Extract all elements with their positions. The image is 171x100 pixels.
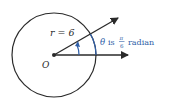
radius-label: r = 6 bbox=[50, 27, 75, 38]
origin-label: O bbox=[42, 60, 50, 70]
angle-symbol: θ bbox=[100, 37, 105, 47]
radian-diagram: r = 6 O θ is π 6 radian bbox=[0, 0, 171, 100]
origin-point bbox=[52, 53, 56, 57]
angle-unit-text: radian bbox=[128, 38, 154, 47]
angle-fraction-denominator: 6 bbox=[120, 43, 124, 49]
angle-is-text: is bbox=[108, 38, 115, 47]
angle-fraction-numerator: π bbox=[119, 35, 124, 41]
angle-arc bbox=[90, 34, 96, 55]
